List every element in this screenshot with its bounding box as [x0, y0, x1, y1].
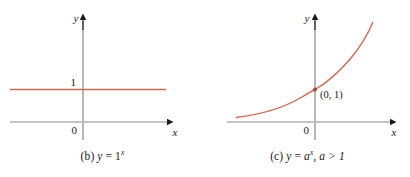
caption-b-lhs: y — [97, 150, 102, 162]
panel-b: y x 1 0 (b) y = 1x — [0, 0, 205, 177]
figure-root: y x 1 0 (b) y = 1x — [0, 0, 410, 177]
plot-b: y x 1 0 — [0, 0, 205, 148]
panel-c: y x 0 (0, 1) (c) y = ax, a > 1 — [205, 0, 410, 177]
origin-label-b: 0 — [72, 124, 78, 136]
caption-b-prefix: (b) — [81, 150, 95, 162]
caption-c-eq: = — [294, 150, 301, 162]
origin-label-c: 0 — [304, 124, 310, 136]
x-axis-label-b: x — [172, 126, 178, 138]
y-axis-label-b: y — [73, 12, 79, 24]
caption-c-condition: , a > 1 — [313, 150, 344, 162]
y-tick-label-one: 1 — [71, 76, 77, 88]
x-axis-label-c: x — [391, 126, 397, 138]
caption-c: (c) y = ax, a > 1 — [205, 150, 410, 162]
caption-b-eq: = — [106, 150, 113, 162]
caption-b: (b) y = 1x — [0, 150, 205, 162]
y-axis-label-c: y — [304, 12, 310, 24]
caption-c-lhs: y — [286, 150, 291, 162]
caption-b-exponent: x — [121, 148, 124, 157]
plot-c: y x 0 (0, 1) — [205, 0, 410, 148]
caption-c-prefix: (c) — [270, 150, 283, 162]
point-label-zero-one: (0, 1) — [320, 89, 343, 101]
point-marker-zero-one — [313, 88, 317, 92]
curve-exponential — [236, 22, 373, 118]
